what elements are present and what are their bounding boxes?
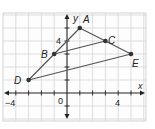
point-c — [103, 39, 108, 44]
x-axis-label: x — [137, 81, 143, 91]
point-b — [52, 52, 57, 57]
y-axis-label: y — [72, 13, 79, 24]
coordinate-plane-figure: y x −4 0 4 4 A B C D E — [0, 0, 155, 129]
point-label-a: A — [82, 14, 90, 25]
point-d — [26, 78, 31, 83]
tick-label-y-4: 4 — [56, 36, 61, 46]
point-label-d: D — [14, 75, 21, 86]
point-e — [129, 52, 134, 57]
point-label-e: E — [132, 58, 139, 69]
point-a — [78, 26, 83, 31]
point-label-b: B — [41, 49, 48, 60]
tick-label-origin: 0 — [58, 96, 63, 106]
tick-label-x-neg4: −4 — [5, 98, 15, 108]
tick-label-x-4: 4 — [115, 98, 120, 108]
coordinate-plane-svg: y x −4 0 4 4 A B C D E — [0, 0, 155, 129]
point-label-c: C — [108, 35, 116, 46]
